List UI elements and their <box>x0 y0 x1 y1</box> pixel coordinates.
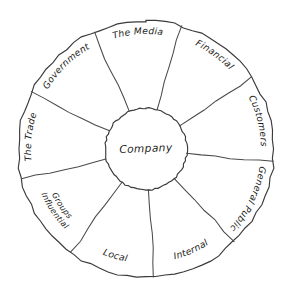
spoke-line <box>95 32 129 111</box>
sector-label-the-media: The Media <box>111 25 164 41</box>
spoke-line <box>180 77 252 126</box>
spoke-line <box>31 92 109 131</box>
spoke-line <box>157 26 182 110</box>
sector-label-the-trade: The Trade <box>22 111 39 162</box>
spoke-line <box>70 182 122 252</box>
spoke-line <box>22 159 106 179</box>
sector-label-internal: Internal <box>172 236 210 261</box>
spoke-line <box>148 189 153 277</box>
spoke-line <box>174 178 234 241</box>
stakeholder-wheel-diagram: The MediaFinancialCustomersGeneral Publi… <box>0 0 293 297</box>
sector-label-government: Government <box>40 41 91 91</box>
sector-label-local: Local <box>102 246 129 263</box>
center-label: Company <box>119 141 173 155</box>
sector-label-general-public: General Public <box>228 166 269 235</box>
spoke-line <box>186 153 273 161</box>
sector-label-customers: Customers <box>247 93 270 147</box>
